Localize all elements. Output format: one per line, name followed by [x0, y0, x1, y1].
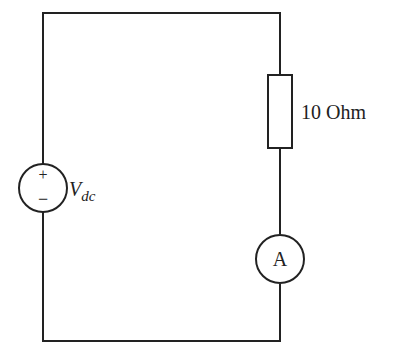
wire-left-top [43, 13, 280, 164]
source-label-subscript: dc [81, 188, 96, 204]
resistor: 10 Ohm [268, 75, 366, 148]
resistor-body [268, 75, 292, 148]
dc-voltage-source: + − Vdc [19, 164, 96, 212]
resistor-label: 10 Ohm [301, 101, 366, 123]
ammeter: A [256, 235, 304, 283]
wires [43, 13, 280, 341]
wire-bottom [43, 212, 280, 341]
circuit-diagram: + − Vdc 10 Ohm A [0, 0, 407, 357]
source-minus-sign: − [38, 189, 48, 209]
ammeter-label: A [273, 248, 288, 270]
source-label: Vdc [69, 178, 96, 204]
source-plus-sign: + [38, 166, 47, 183]
